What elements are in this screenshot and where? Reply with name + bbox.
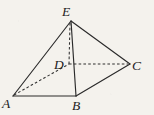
- vertex-label-D: D: [53, 57, 64, 72]
- geometry-diagram-canvas: E D C A B: [0, 0, 154, 115]
- vertex-label-C: C: [132, 58, 142, 73]
- vertex-label-E: E: [61, 4, 71, 19]
- geometry-figure: E D C A B: [0, 0, 154, 115]
- vertex-label-A: A: [1, 96, 11, 111]
- vertex-label-B: B: [72, 98, 80, 113]
